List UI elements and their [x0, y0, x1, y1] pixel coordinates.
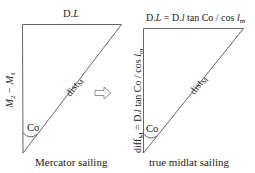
diagram-canvas: [0, 0, 255, 173]
right-vert-p1: diff: [132, 139, 143, 153]
m2-subscript: 2: [9, 96, 17, 100]
right-vert-p2: = D.: [132, 112, 143, 132]
left-caption: Mercator sailing: [35, 157, 107, 168]
right-vert-p3-subscript: m: [137, 49, 145, 54]
right-vertical-label: diffM = D.l tan Co / cos lm: [133, 49, 145, 153]
right-top-p3-subscript: m: [240, 17, 245, 25]
left-vertical-label: M2 − M1: [5, 72, 17, 108]
m1-symbol: M: [4, 76, 15, 85]
minus-sign: −: [4, 84, 15, 95]
right-angle-arc: [144, 134, 158, 138]
right-vert-p3-italic: l: [132, 54, 143, 57]
left-top-label-text: D.: [63, 8, 73, 19]
right-top-p1: D.: [146, 12, 156, 23]
right-caption: true midlat sailing: [149, 157, 229, 168]
right-top-label: D.L = D.l tan Co / cos lm: [146, 13, 245, 25]
left-angle-label: Co: [27, 123, 39, 134]
right-angle-label: Co: [146, 124, 158, 135]
left-triangle-vertical-edge: [23, 25, 24, 154]
hollow-right-arrow-icon: [95, 87, 111, 99]
left-top-label: D.L: [63, 9, 79, 20]
right-top-p3: tan Co / cos: [184, 12, 237, 23]
left-angle-arc: [23, 133, 37, 137]
right-vert-p1-subscript: M: [137, 133, 145, 139]
right-vert-p2-italic: l: [132, 109, 143, 112]
left-top-label-italic: L: [73, 8, 79, 19]
right-top-p2: = D.: [161, 12, 181, 23]
m2-symbol: M: [4, 99, 15, 108]
m1-subscript: 1: [9, 72, 17, 76]
right-vert-p3: tan Co / cos: [132, 57, 143, 110]
